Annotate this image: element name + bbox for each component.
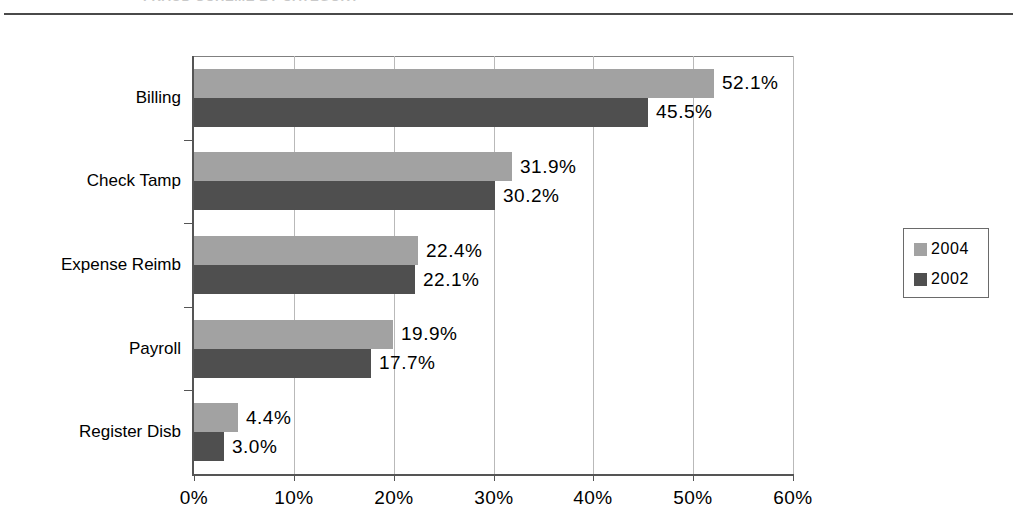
value-label-2002-billing: 45.5%: [656, 101, 712, 123]
bar-2002-register-disb: [194, 432, 224, 461]
x-tick-10pct: [294, 474, 295, 481]
value-label-2004-check-tamp: 31.9%: [520, 156, 576, 178]
bar-2004-register-disb: [194, 403, 238, 432]
y-tick: [184, 307, 192, 308]
bar-chart: 0%10%20%30%40%50%60% BillingCheck TampEx…: [0, 0, 1017, 521]
bar-2002-check-tamp: [194, 181, 495, 210]
x-tick-0pct: [194, 474, 195, 481]
bar-2004-billing: [194, 69, 714, 98]
y-tick: [184, 390, 192, 391]
legend-label-2002: 2002: [931, 270, 969, 288]
x-tick-40pct: [593, 474, 594, 481]
gridline-60pct: [793, 56, 794, 474]
value-label-2002-register-disb: 3.0%: [232, 436, 277, 458]
category-label-payroll: Payroll: [129, 339, 181, 359]
category-label-expense-reimb: Expense Reimb: [61, 255, 181, 275]
chart-page: FRAUD SCHEME BY CATEGORY 0%10%20%30%40%5…: [0, 0, 1017, 521]
bar-2002-payroll: [194, 349, 371, 378]
value-label-2002-payroll: 17.7%: [379, 352, 435, 374]
value-label-2002-expense-reimb: 22.1%: [423, 269, 479, 291]
legend-item-2002: 2002: [914, 270, 969, 288]
value-label-2004-billing: 52.1%: [722, 72, 778, 94]
bar-2004-payroll: [194, 320, 393, 349]
bar-2002-expense-reimb: [194, 265, 415, 294]
category-label-billing: Billing: [136, 88, 181, 108]
x-tick-label: 20%: [374, 487, 414, 509]
category-label-check-tamp: Check Tamp: [87, 171, 181, 191]
category-label-register-disb: Register Disb: [79, 422, 181, 442]
legend-swatch-2004-icon: [914, 243, 927, 256]
legend-label-2004: 2004: [931, 240, 969, 258]
x-tick-label: 40%: [573, 487, 613, 509]
value-label-2004-register-disb: 4.4%: [246, 407, 291, 429]
legend-item-2004: 2004: [914, 240, 969, 258]
legend-swatch-2002-icon: [914, 273, 927, 286]
value-label-2004-payroll: 19.9%: [401, 323, 457, 345]
x-tick-20pct: [394, 474, 395, 481]
value-label-2004-expense-reimb: 22.4%: [426, 240, 482, 262]
x-tick-label: 50%: [673, 487, 713, 509]
x-tick-label: 60%: [773, 487, 813, 509]
x-tick-label: 0%: [180, 487, 208, 509]
x-tick-label: 30%: [474, 487, 514, 509]
x-axis-line: [192, 474, 793, 476]
bar-2004-check-tamp: [194, 152, 512, 181]
x-tick-label: 10%: [274, 487, 314, 509]
bar-2002-billing: [194, 98, 648, 127]
bar-2004-expense-reimb: [194, 236, 418, 265]
x-tick-60pct: [793, 474, 794, 481]
y-tick: [184, 223, 192, 224]
x-tick-30pct: [494, 474, 495, 481]
plot-top-border: [192, 56, 793, 57]
value-label-2002-check-tamp: 30.2%: [503, 185, 559, 207]
chart-legend: 2004 2002: [903, 228, 989, 298]
y-tick: [184, 140, 192, 141]
x-tick-50pct: [693, 474, 694, 481]
